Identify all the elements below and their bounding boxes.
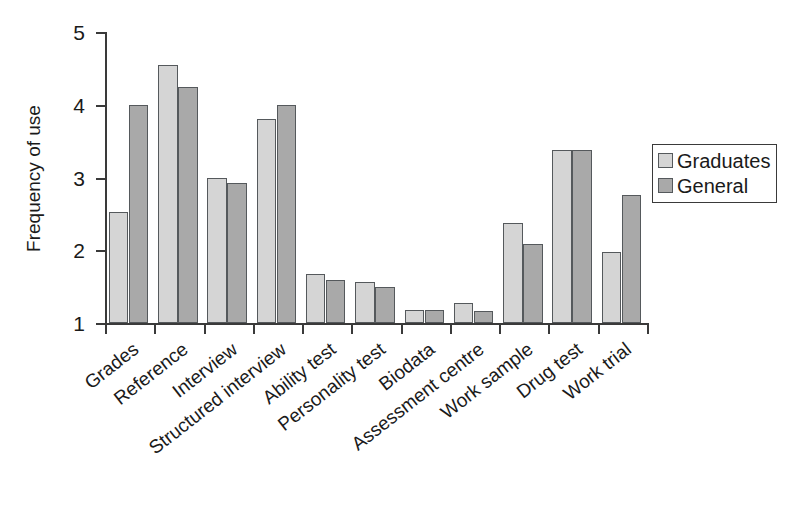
y-tick-label-4: 4 [45, 95, 85, 116]
x-tick-5 [401, 323, 403, 334]
bar-personality-test-graduates [355, 282, 375, 323]
x-label-wrap-8: Work sample [530, 337, 531, 357]
plot-area: 12345 [105, 32, 647, 325]
x-label-wrap-3: Structured interview [283, 337, 284, 357]
x-label-wrap-10: Work trial [628, 337, 629, 357]
bar-grades-general [129, 105, 149, 323]
bar-ability-test-general [326, 280, 346, 323]
y-tick-label-5: 5 [45, 22, 85, 43]
bar-reference-general [178, 87, 198, 323]
y-tick-4 [96, 105, 106, 107]
bar-work-trial-graduates [602, 252, 622, 323]
legend-item-general[interactable]: General [658, 173, 770, 198]
x-tick-6 [450, 323, 452, 334]
x-label-wrap-6: Biodata [431, 337, 432, 357]
bar-personality-test-general [375, 287, 395, 323]
x-label-wrap-0: Grades [136, 337, 137, 357]
x-tick-4 [351, 323, 353, 334]
bar-assessment-centre-graduates [454, 303, 474, 323]
y-tick-label-3: 3 [45, 168, 85, 189]
bar-structured-interview-graduates [257, 119, 277, 323]
bar-interview-graduates [207, 178, 227, 323]
x-tick-8 [548, 323, 550, 334]
y-tick-label-2: 2 [45, 240, 85, 261]
bar-chart: Frequency of use 12345 GradesReferenceIn… [0, 0, 801, 514]
legend-swatch-icon-general [658, 178, 673, 193]
x-tick-10 [647, 323, 649, 334]
x-label-wrap-2: Interview [234, 337, 235, 357]
x-label-wrap-1: Reference [185, 337, 186, 357]
bar-biodata-graduates [405, 310, 425, 323]
bar-work-trial-general [622, 195, 642, 323]
x-tick-2 [253, 323, 255, 334]
legend-label-graduates: Graduates [677, 151, 770, 171]
x-tick-7 [499, 323, 501, 334]
bar-drug-test-general [572, 150, 592, 323]
x-label-wrap-5: Personality test [382, 337, 383, 357]
x-tick-9 [598, 323, 600, 334]
x-axis-line [105, 323, 647, 325]
bar-work-sample-graduates [503, 223, 523, 323]
x-tick-origin [105, 323, 107, 334]
legend-swatch-icon-graduates [658, 153, 673, 168]
bar-biodata-general [425, 310, 445, 323]
bar-ability-test-graduates [306, 274, 326, 323]
bar-interview-general [227, 183, 247, 323]
x-label-wrap-4: Ability test [333, 337, 334, 357]
legend: Graduates General [652, 144, 777, 203]
bar-reference-graduates [158, 65, 178, 323]
x-label-wrap-7: Assessment centre [480, 337, 481, 357]
x-tick-0 [154, 323, 156, 334]
bar-structured-interview-general [277, 105, 297, 323]
bar-work-sample-general [523, 244, 543, 323]
x-tick-1 [204, 323, 206, 334]
bar-assessment-centre-general [474, 311, 494, 323]
bar-drug-test-graduates [552, 150, 572, 323]
y-tick-5 [96, 32, 106, 34]
y-tick-2 [96, 250, 106, 252]
y-tick-label-1: 1 [45, 313, 85, 334]
x-tick-3 [302, 323, 304, 334]
y-tick-3 [96, 178, 106, 180]
legend-item-graduates[interactable]: Graduates [658, 148, 770, 173]
x-label-wrap-9: Drug test [579, 337, 580, 357]
bar-grades-graduates [109, 212, 129, 323]
legend-label-general: General [677, 176, 748, 196]
